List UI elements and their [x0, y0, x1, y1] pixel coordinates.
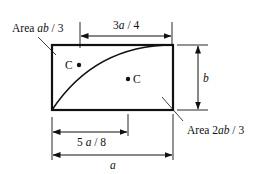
dim-bottom-label: a — [110, 159, 116, 171]
spandrel-diagram: C C 3a / 4 Area ab / 3 b Area 2ab / 3 5 … — [0, 0, 254, 174]
centroid-upper-dot — [77, 63, 81, 67]
dim-top-label: 3a / 4 — [113, 19, 139, 31]
dim-right-label: b — [203, 72, 209, 84]
centroid-lower-dot — [126, 77, 130, 81]
dim-inner-label: 5 a / 8 — [77, 136, 106, 148]
area-upper-label: Area ab / 3 — [12, 22, 64, 34]
centroid-upper-label: C — [65, 59, 73, 71]
centroid-lower-label: C — [133, 73, 141, 85]
rectangle-outline — [52, 45, 173, 110]
area-lower-label: Area 2ab / 3 — [187, 124, 244, 136]
parabolic-curve — [52, 45, 173, 110]
